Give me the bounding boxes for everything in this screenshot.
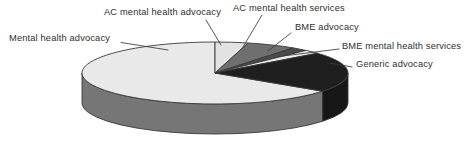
leader-line-ac-mental-health-services bbox=[243, 15, 262, 47]
pie-top-face bbox=[82, 42, 348, 104]
leader-line-ac-mental-health-advocacy bbox=[206, 20, 221, 45]
label-ac-mental-health-advocacy: AC mental health advocacy bbox=[104, 7, 221, 18]
label-generic-advocacy: Generic advocacy bbox=[356, 59, 433, 70]
pie-chart: AC mental health advocacy AC mental heal… bbox=[0, 0, 468, 153]
label-ac-mental-health-services: AC mental health services bbox=[233, 3, 345, 14]
label-mental-health-advocacy: Mental health advocacy bbox=[9, 33, 110, 44]
label-bme-advocacy: BME advocacy bbox=[295, 22, 359, 33]
pie-chart-graphic bbox=[0, 0, 468, 153]
label-bme-mental-health-services: BME mental health services bbox=[342, 41, 461, 52]
